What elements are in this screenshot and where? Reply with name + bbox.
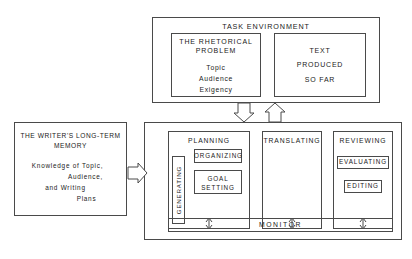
evaluating-label: EVALUATING	[337, 158, 389, 166]
organizing-label: ORGANIZING	[194, 152, 242, 160]
planning-title: PLANNING	[168, 137, 250, 146]
editing-label: EDITING	[344, 182, 382, 190]
goal-setting-line1: GOAL	[207, 175, 228, 182]
rhetorical-problem-title-line1: THE RHETORICAL	[179, 38, 253, 45]
long-term-memory-body-line3: and Writing	[14, 182, 127, 193]
arrow-down-task-to-process	[234, 103, 254, 122]
rhetorical-problem-items: TopicAudienceExigency	[171, 62, 261, 95]
long-term-memory-title-line2: MEMORY	[54, 142, 87, 149]
long-term-memory-body: Knowledge of Topic,Audience,and WritingP…	[14, 160, 127, 204]
rhetorical-problem-item-exigency: Exigency	[199, 86, 232, 93]
reviewing-title: REVIEWING	[333, 137, 393, 146]
long-term-memory-title: THE WRITER'S LONG-TERMMEMORY	[14, 131, 127, 151]
writing-process-diagram: TASK ENVIRONMENT THE RHETORICALPROBLEM T…	[0, 0, 412, 259]
text-produced-line1: TEXT	[309, 47, 330, 54]
rhetorical-problem-item-audience: Audience	[199, 75, 233, 82]
goal-setting-label: GOALSETTING	[194, 174, 242, 192]
text-produced-line2: PRODUCED	[297, 61, 343, 68]
goal-setting-line2: SETTING	[201, 184, 235, 191]
arrow-up-process-to-task	[265, 103, 285, 122]
task-environment-title: TASK ENVIRONMENT	[152, 22, 380, 31]
long-term-memory-body-line1: Knowledge of Topic,	[14, 160, 127, 171]
long-term-memory-title-line1: THE WRITER'S LONG-TERM	[20, 132, 120, 139]
long-term-memory-body-line2: Audience,	[14, 171, 127, 182]
text-produced-line3: SO FAR	[305, 76, 335, 83]
rhetorical-problem-item-topic: Topic	[206, 64, 225, 71]
monitor-label: MONITOR	[168, 221, 393, 230]
rhetorical-problem-title-line2: PROBLEM	[196, 47, 237, 54]
generating-label: GENERATING	[172, 156, 185, 224]
translating-title: TRANSLATING	[262, 137, 322, 146]
long-term-memory-body-line4: Plans	[14, 193, 127, 204]
rhetorical-problem-title: THE RHETORICALPROBLEM	[171, 38, 261, 56]
translating-box	[262, 131, 322, 229]
text-produced-so-far-lines: TEXTPRODUCEDSO FAR	[274, 44, 366, 87]
